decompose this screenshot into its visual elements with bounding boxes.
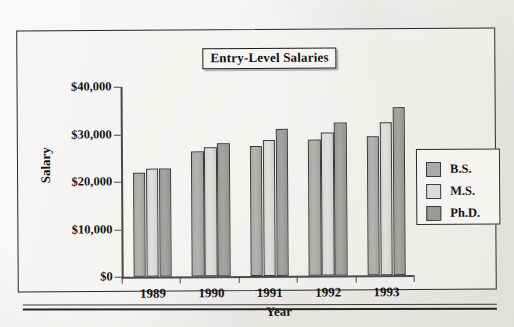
x-tick-mark [122, 277, 123, 284]
x-axis-title: Year [266, 304, 292, 320]
y-axis-ticks: $0$10,000$20,000$30,000$40,000 [121, 85, 413, 87]
legend-item-bs: B.S. [426, 161, 472, 177]
legend-item-phd: Ph.D. [426, 205, 480, 221]
chart-legend: B.S.M.S.Ph.D. [416, 149, 500, 226]
x-tick-mark [414, 275, 415, 282]
legend-swatch-icon [426, 205, 441, 220]
bar-ms-1991 [263, 140, 276, 276]
bar-phd-1991 [276, 129, 289, 276]
bar-ms-1992 [321, 132, 334, 276]
y-tick-label: $40,000 [71, 79, 112, 94]
bar-series-layer [121, 85, 413, 87]
x-tick-mark [180, 276, 181, 283]
x-tick-label: 1993 [374, 284, 400, 300]
y-tick-mark [114, 134, 121, 135]
y-tick-mark [114, 229, 121, 230]
bar-phd-1993 [392, 107, 406, 275]
y-tick-label: $20,000 [71, 174, 112, 189]
legend-label: M.S. [450, 183, 475, 198]
y-axis-title: Salary [38, 147, 54, 183]
x-tick-mark [238, 276, 239, 283]
bar-phd-1992 [334, 123, 347, 276]
x-tick-mark [355, 275, 356, 282]
bar-bs-1991 [250, 146, 263, 276]
chart-title: Entry-Level Salaries [202, 48, 337, 70]
bar-ms-1990 [204, 148, 217, 277]
page-rule-thin [23, 304, 497, 306]
bar-ms-1989 [146, 169, 159, 277]
x-tick-label: 1991 [257, 285, 283, 301]
x-tick-label: 1989 [140, 286, 166, 302]
x-tick-mark [297, 276, 298, 283]
legend-swatch-icon [426, 183, 441, 198]
y-tick-label: $30,000 [71, 127, 112, 142]
bar-bs-1992 [308, 140, 321, 276]
bar-phd-1990 [217, 143, 230, 276]
legend-item-ms: M.S. [426, 183, 475, 199]
chart-figure-frame: $0$10,000$20,000$30,000$40,000 198919901… [16, 28, 497, 293]
bar-bs-1990 [191, 151, 204, 276]
bar-ms-1993 [379, 122, 392, 275]
legend-label: B.S. [450, 161, 472, 176]
x-tick-label: 1992 [315, 284, 341, 300]
legend-swatch-icon [426, 161, 441, 176]
y-tick-mark [115, 277, 122, 278]
bar-bs-1993 [366, 136, 379, 275]
bar-phd-1989 [159, 169, 172, 277]
x-axis-ticks: 19891990199119921993 [121, 85, 413, 87]
legend-label: Ph.D. [450, 205, 480, 220]
y-tick-label: $10,000 [72, 222, 113, 237]
x-tick-label: 1990 [198, 285, 224, 301]
y-tick-label: $0 [100, 269, 113, 284]
bar-bs-1989 [133, 172, 146, 277]
page-rule-thick [23, 308, 497, 311]
plot-area: $0$10,000$20,000$30,000$40,000 198919901… [121, 85, 414, 279]
scan-skew-wrapper: $0$10,000$20,000$30,000$40,000 198919901… [0, 0, 514, 327]
y-tick-mark [114, 182, 121, 183]
y-tick-mark [114, 87, 121, 88]
